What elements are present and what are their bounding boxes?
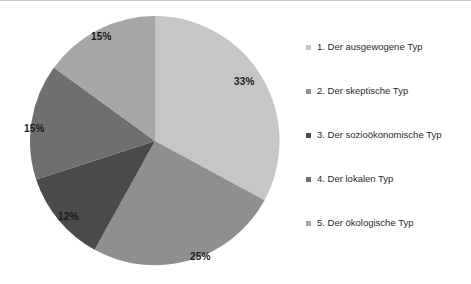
legend-item-2[interactable]: 2. Der skeptische Typ [306,85,408,97]
legend-item-3[interactable]: 3. Der sozioökonomische Typ [306,129,441,141]
legend-item-5[interactable]: 5. Der ökologische Typ [306,217,413,229]
legend-item-1[interactable]: 1. Der ausgewogene Typ [306,41,422,53]
legend-marker-square-icon [306,177,311,182]
legend-marker-square-icon [306,89,311,94]
chart-plot-area: 33% 25% 12% 15% 15% [0,1,300,284]
legend-marker-square-icon [306,45,311,50]
legend-item-label: 4. Der lokalen Typ [317,173,393,185]
legend-marker-square-icon [306,221,311,226]
slice-value-label-2: 25% [190,251,211,262]
legend-item-4[interactable]: 4. Der lokalen Typ [306,173,393,185]
legend-item-label: 3. Der sozioökonomische Typ [317,129,441,141]
legend-item-label: 1. Der ausgewogene Typ [317,41,422,53]
legend-marker-square-icon [306,133,311,138]
pie-chart-svg [30,16,280,266]
chart-legend: 1. Der ausgewogene Typ 2. Der skeptische… [306,41,471,241]
legend-item-label: 5. Der ökologische Typ [317,217,413,229]
pie-chart-screenshot: 33% 25% 12% 15% 15% 1. Der ausgewogene T… [0,0,471,284]
legend-item-label: 2. Der skeptische Typ [317,85,408,97]
slice-value-label-3: 12% [58,211,79,222]
slice-value-label-1: 33% [234,76,255,87]
slice-value-label-5: 15% [91,31,112,42]
slice-value-label-4: 15% [24,123,45,134]
